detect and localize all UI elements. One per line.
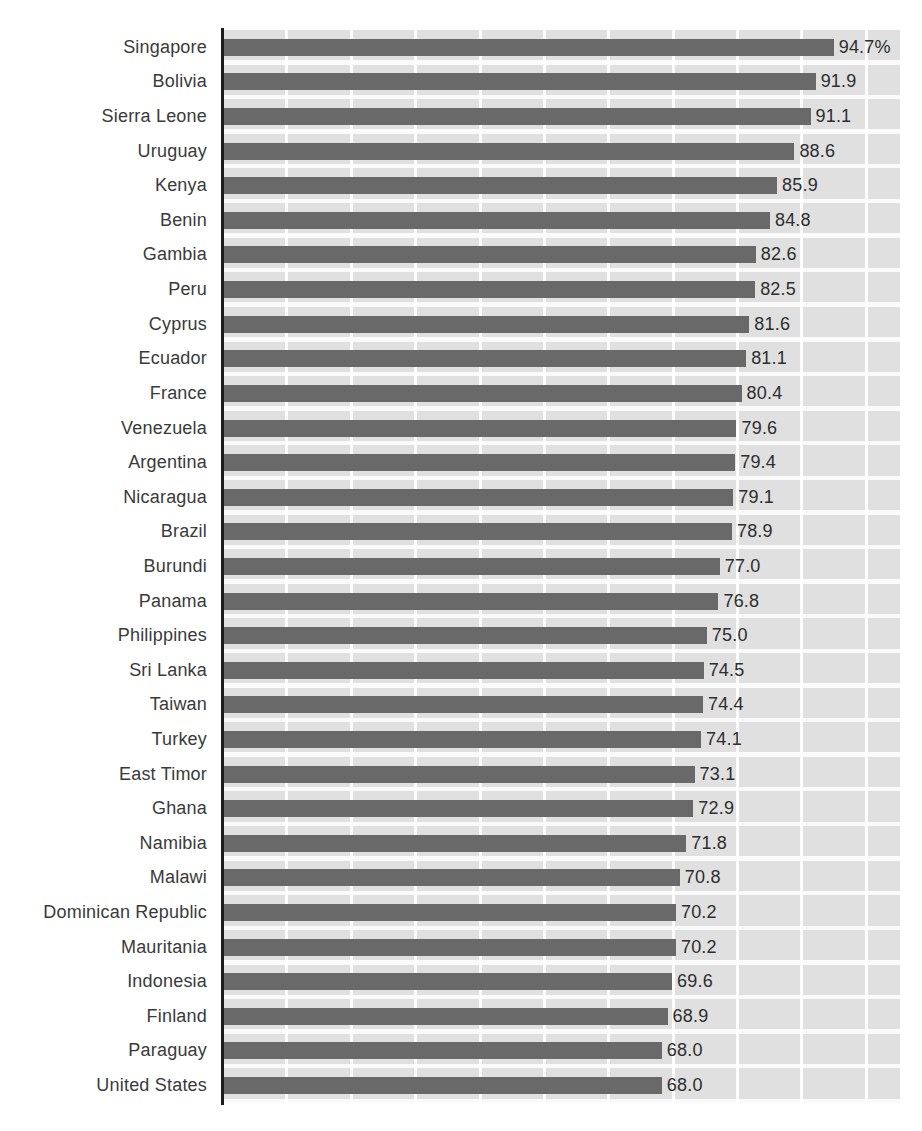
bar-area: 79.4 xyxy=(224,452,900,473)
bar xyxy=(224,523,732,540)
bar-area: 74.4 xyxy=(224,694,900,715)
bar-row: Singapore 94.7% xyxy=(0,30,922,65)
value-label: 79.6 xyxy=(741,418,777,439)
bar-area: 82.5 xyxy=(224,279,900,300)
bar xyxy=(224,385,742,402)
category-label: Venezuela xyxy=(0,418,221,439)
bar-row: Bolivia 91.9 xyxy=(0,65,922,100)
bar xyxy=(224,246,756,263)
bar-area: 72.9 xyxy=(224,798,900,819)
bar xyxy=(224,593,718,610)
category-label: Bolivia xyxy=(0,71,221,92)
bar-area: 75.0 xyxy=(224,625,900,646)
bar-area: 74.1 xyxy=(224,729,900,750)
bar-area: 70.2 xyxy=(224,902,900,923)
bar xyxy=(224,973,672,990)
value-label: 69.6 xyxy=(677,971,713,992)
category-label: Malawi xyxy=(0,867,221,888)
bar-row: Indonesia 69.6 xyxy=(0,964,922,999)
bar-area: 91.1 xyxy=(224,106,900,127)
bar-area: 73.1 xyxy=(224,764,900,785)
bar xyxy=(224,212,770,229)
bar-row: Paraguay 68.0 xyxy=(0,1034,922,1069)
value-label: 88.6 xyxy=(799,141,835,162)
bar-row: United States 68.0 xyxy=(0,1068,922,1103)
category-label: Benin xyxy=(0,210,221,231)
value-label: 68.0 xyxy=(667,1040,703,1061)
value-label: 94.7% xyxy=(839,37,891,58)
bar-row: Sierra Leone 91.1 xyxy=(0,99,922,134)
bar-row: Ghana 72.9 xyxy=(0,791,922,826)
value-label: 91.9 xyxy=(821,71,857,92)
bar-area: 94.7% xyxy=(224,37,900,58)
bar-row: Cyprus 81.6 xyxy=(0,307,922,342)
category-label: Paraguay xyxy=(0,1040,221,1061)
category-label: France xyxy=(0,383,221,404)
bar-area: 77.0 xyxy=(224,556,900,577)
bar xyxy=(224,108,811,125)
category-label: Finland xyxy=(0,1006,221,1027)
value-label: 81.6 xyxy=(754,314,790,335)
bar-area: 84.8 xyxy=(224,210,900,231)
bar-row: Brazil 78.9 xyxy=(0,515,922,550)
bar-row: East Timor 73.1 xyxy=(0,757,922,792)
bar-row: Taiwan 74.4 xyxy=(0,688,922,723)
bar-row: Mauritania 70.2 xyxy=(0,930,922,965)
bar-area: 79.1 xyxy=(224,487,900,508)
category-label: Cyprus xyxy=(0,314,221,335)
value-label: 79.4 xyxy=(740,452,776,473)
value-label: 75.0 xyxy=(712,625,748,646)
bar-area: 68.0 xyxy=(224,1075,900,1096)
value-label: 82.6 xyxy=(761,244,797,265)
bar-area: 71.8 xyxy=(224,833,900,854)
category-label: Burundi xyxy=(0,556,221,577)
bar-row: Uruguay 88.6 xyxy=(0,134,922,169)
bar-area: 70.8 xyxy=(224,867,900,888)
bar-area: 81.1 xyxy=(224,348,900,369)
bar xyxy=(224,1077,662,1094)
value-label: 70.8 xyxy=(685,867,721,888)
bar-row: Peru 82.5 xyxy=(0,272,922,307)
category-label: Peru xyxy=(0,279,221,300)
value-label: 81.1 xyxy=(751,348,787,369)
bar xyxy=(224,766,695,783)
bar xyxy=(224,1008,668,1025)
category-label: Sri Lanka xyxy=(0,660,221,681)
bar xyxy=(224,800,693,817)
category-label: Argentina xyxy=(0,452,221,473)
bar xyxy=(224,939,676,956)
bar xyxy=(224,177,777,194)
bar xyxy=(224,731,701,748)
bar xyxy=(224,420,736,437)
value-label: 68.9 xyxy=(673,1006,709,1027)
category-label: Gambia xyxy=(0,244,221,265)
category-label: Panama xyxy=(0,591,221,612)
category-label: Turkey xyxy=(0,729,221,750)
bar-area: 88.6 xyxy=(224,141,900,162)
category-label: Namibia xyxy=(0,833,221,854)
value-label: 77.0 xyxy=(725,556,761,577)
bar-row: Namibia 71.8 xyxy=(0,826,922,861)
bar-area: 91.9 xyxy=(224,71,900,92)
value-label: 78.9 xyxy=(737,521,773,542)
value-label: 74.5 xyxy=(709,660,745,681)
bar-area: 68.0 xyxy=(224,1040,900,1061)
bar-area: 76.8 xyxy=(224,591,900,612)
bar-row: Ecuador 81.1 xyxy=(0,341,922,376)
bar xyxy=(224,662,704,679)
value-label: 74.1 xyxy=(706,729,742,750)
value-label: 80.4 xyxy=(747,383,783,404)
bar-row: France 80.4 xyxy=(0,376,922,411)
bar-area: 68.9 xyxy=(224,1006,900,1027)
bar xyxy=(224,696,703,713)
category-label: Nicaragua xyxy=(0,487,221,508)
value-label: 73.1 xyxy=(700,764,736,785)
bar xyxy=(224,904,676,921)
category-label: Indonesia xyxy=(0,971,221,992)
category-label: Singapore xyxy=(0,37,221,58)
bar-row: Dominican Republic 70.2 xyxy=(0,895,922,930)
category-label: Uruguay xyxy=(0,141,221,162)
value-label: 74.4 xyxy=(708,694,744,715)
bar-row: Malawi 70.8 xyxy=(0,861,922,896)
value-label: 84.8 xyxy=(775,210,811,231)
